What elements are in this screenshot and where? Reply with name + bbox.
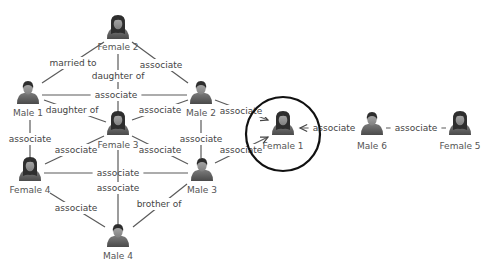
- edge-female5-male6[interactable]: associate: [386, 122, 446, 134]
- edge-female3-male1[interactable]: daughter of: [41, 100, 106, 122]
- node-label: Female 2: [97, 42, 138, 52]
- edge-label: associate: [9, 134, 52, 144]
- edge-label: daughter of: [92, 71, 145, 81]
- nodes-layer: Female 2Male 1Male 2Female 3Female 4Male…: [9, 15, 480, 261]
- female-person-icon: [449, 111, 471, 135]
- node-female5[interactable]: Female 5: [439, 111, 480, 151]
- edge-female4-male4[interactable]: associate: [50, 193, 105, 227]
- relationship-graph: married todaughter ofassociateassociated…: [0, 0, 485, 269]
- node-male6[interactable]: Male 6: [357, 112, 387, 151]
- female-person-icon: [107, 111, 129, 135]
- edge-label: associate: [55, 145, 98, 155]
- edge-female3-male2[interactable]: associate: [132, 100, 188, 120]
- node-label: Female 3: [97, 140, 138, 150]
- node-male1[interactable]: Male 1: [13, 81, 43, 118]
- node-female3[interactable]: Female 3: [97, 111, 138, 150]
- edge-label: associate: [140, 60, 183, 70]
- node-label: Male 4: [103, 251, 133, 261]
- node-female2[interactable]: Female 2: [97, 15, 138, 52]
- male-person-icon: [190, 81, 212, 104]
- node-label: Male 3: [187, 185, 217, 195]
- edge-label: associate: [395, 123, 438, 133]
- node-label: Male 2: [186, 108, 216, 118]
- male-person-icon: [361, 112, 383, 135]
- edge-label: brother of: [137, 199, 183, 209]
- edge-label: married to: [49, 58, 97, 68]
- edge-female4-male3[interactable]: associate: [44, 167, 188, 179]
- node-male3[interactable]: Male 3: [187, 158, 217, 195]
- edge-male2-female1[interactable]: associate: [215, 100, 268, 121]
- node-label: Male 6: [357, 141, 387, 151]
- edge-male1-female4[interactable]: associate: [5, 120, 56, 158]
- edge-male1-male2[interactable]: associate: [42, 89, 187, 101]
- edge-label: associate: [220, 145, 263, 155]
- edge-label: associate: [139, 105, 182, 115]
- node-male4[interactable]: Male 4: [103, 224, 133, 261]
- node-label: Female 5: [439, 141, 480, 151]
- node-male2[interactable]: Male 2: [186, 81, 216, 118]
- male-person-icon: [107, 224, 129, 247]
- edge-label: associate: [139, 145, 182, 155]
- node-label: Male 1: [13, 108, 43, 118]
- male-person-icon: [17, 81, 39, 104]
- female-person-icon: [107, 15, 129, 39]
- edge-label: associate: [95, 90, 138, 100]
- node-label: Female 1: [262, 141, 303, 151]
- female-person-icon: [272, 111, 294, 135]
- node-label: Female 4: [9, 185, 50, 195]
- node-female4[interactable]: Female 4: [9, 157, 50, 195]
- female-person-icon: [19, 157, 41, 181]
- edge-label: associate: [97, 183, 140, 193]
- edge-label: associate: [55, 203, 98, 213]
- edge-label: daughter of: [46, 105, 99, 115]
- node-female1[interactable]: Female 1: [262, 111, 303, 151]
- edge-male6-female1[interactable]: associate: [300, 122, 359, 134]
- male-person-icon: [191, 158, 213, 181]
- edge-label: associate: [180, 134, 223, 144]
